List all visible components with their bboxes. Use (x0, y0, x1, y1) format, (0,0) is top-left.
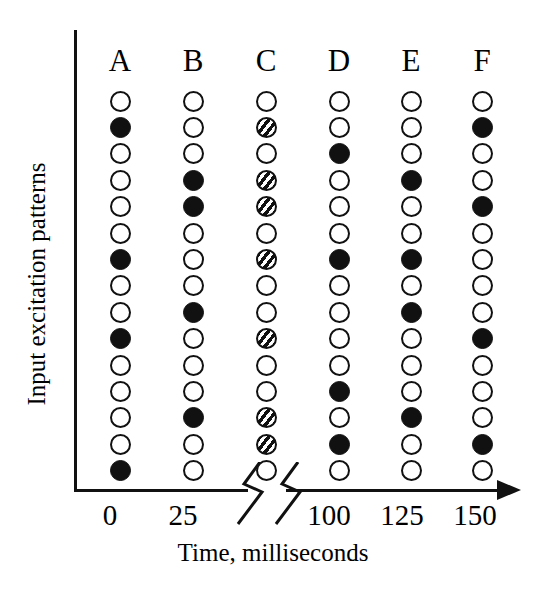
marker-slot (401, 114, 422, 140)
marker-open-d15 (329, 460, 350, 481)
marker-slot (329, 457, 350, 483)
marker-slot (472, 114, 493, 140)
marker-open-d1 (329, 91, 350, 112)
marker-slot (256, 141, 277, 167)
marker-slot (472, 88, 493, 114)
marker-filled-b9 (183, 302, 204, 323)
marker-slot (401, 299, 422, 325)
marker-open-d6 (329, 223, 350, 244)
marker-open-b2 (183, 117, 204, 138)
marker-open-f12 (472, 381, 493, 402)
marker-slot (110, 299, 131, 325)
marker-slot (401, 194, 422, 220)
marker-slot (401, 405, 422, 431)
marker-slot (472, 273, 493, 299)
marker-slot (183, 88, 204, 114)
marker-open-e3 (401, 143, 422, 164)
marker-open-f9 (472, 302, 493, 323)
marker-slot (183, 405, 204, 431)
column-header-b: B (163, 44, 223, 78)
marker-slot (256, 167, 277, 193)
x-tick-label-150: 150 (437, 498, 513, 532)
marker-slot (110, 378, 131, 404)
marker-slot (401, 457, 422, 483)
marker-filled-e13 (401, 407, 422, 428)
marker-slot (401, 167, 422, 193)
marker-slot (329, 88, 350, 114)
x-tick-label-125: 125 (364, 498, 440, 532)
marker-hatched-c7 (256, 249, 277, 270)
marker-hatched-c2 (256, 117, 277, 138)
marker-column-c (236, 88, 296, 484)
marker-column-a (90, 88, 150, 484)
marker-filled-f5 (472, 196, 493, 217)
marker-slot (110, 141, 131, 167)
marker-open-a1 (110, 91, 131, 112)
marker-slot (110, 114, 131, 140)
marker-filled-d14 (329, 434, 350, 455)
marker-open-a14 (110, 434, 131, 455)
marker-slot (256, 378, 277, 404)
column-header-f: F (452, 44, 512, 78)
marker-filled-b13 (183, 407, 204, 428)
marker-filled-f14 (472, 434, 493, 455)
marker-open-d9 (329, 302, 350, 323)
marker-slot (256, 88, 277, 114)
marker-filled-e9 (401, 302, 422, 323)
marker-open-a5 (110, 196, 131, 217)
marker-slot (110, 352, 131, 378)
marker-open-f7 (472, 249, 493, 270)
x-axis-title: Time, milliseconds (108, 538, 438, 568)
marker-hatched-c5 (256, 196, 277, 217)
marker-open-b7 (183, 249, 204, 270)
column-header-d: D (309, 44, 369, 78)
marker-open-c9 (256, 302, 277, 323)
marker-hatched-c13 (256, 407, 277, 428)
marker-slot (401, 141, 422, 167)
marker-open-e2 (401, 117, 422, 138)
marker-slot (472, 220, 493, 246)
marker-slot (472, 405, 493, 431)
marker-filled-a10 (110, 328, 131, 349)
marker-slot (329, 246, 350, 272)
marker-column-e (381, 88, 441, 484)
marker-open-e14 (401, 434, 422, 455)
marker-slot (401, 352, 422, 378)
marker-open-f6 (472, 223, 493, 244)
column-header-c: C (236, 44, 296, 78)
x-tick-label-0: 0 (72, 498, 148, 532)
marker-open-e6 (401, 223, 422, 244)
x-axis-line-left-segment (74, 489, 248, 492)
marker-filled-e7 (401, 249, 422, 270)
marker-slot (401, 220, 422, 246)
x-tick-label-25: 25 (145, 498, 221, 532)
marker-hatched-c14 (256, 434, 277, 455)
marker-slot (329, 167, 350, 193)
marker-slot (329, 378, 350, 404)
marker-open-f15 (472, 460, 493, 481)
marker-open-a8 (110, 275, 131, 296)
marker-open-a13 (110, 407, 131, 428)
marker-slot (256, 299, 277, 325)
marker-slot (472, 167, 493, 193)
marker-open-d11 (329, 355, 350, 376)
marker-open-d13 (329, 407, 350, 428)
marker-slot (401, 378, 422, 404)
marker-slot (401, 326, 422, 352)
marker-open-a4 (110, 170, 131, 191)
marker-slot (256, 273, 277, 299)
marker-slot (183, 246, 204, 272)
marker-slot (183, 457, 204, 483)
marker-filled-f2 (472, 117, 493, 138)
marker-slot (256, 326, 277, 352)
marker-slot (110, 194, 131, 220)
marker-open-e15 (401, 460, 422, 481)
marker-slot (329, 299, 350, 325)
marker-slot (401, 273, 422, 299)
marker-slot (110, 457, 131, 483)
marker-open-c6 (256, 223, 277, 244)
marker-slot (256, 220, 277, 246)
marker-slot (183, 194, 204, 220)
marker-slot (183, 378, 204, 404)
y-axis-line (74, 30, 77, 492)
